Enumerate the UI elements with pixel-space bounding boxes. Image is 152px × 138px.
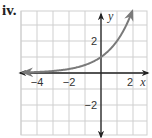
curve-path: [23, 11, 132, 72]
y-tick-label: −2: [84, 99, 97, 111]
y-axis-label: y: [107, 9, 114, 23]
tick-labels: −4−222−2xy: [31, 9, 147, 111]
x-tick-label: 2: [127, 76, 133, 88]
exponential-curve: [23, 11, 132, 72]
y-tick-label: 2: [91, 35, 97, 47]
graph: −4−222−2xy: [0, 0, 152, 138]
x-tick-label: −2: [63, 76, 76, 88]
x-tick-label: −4: [31, 76, 44, 88]
x-axis-label: x: [139, 75, 146, 89]
